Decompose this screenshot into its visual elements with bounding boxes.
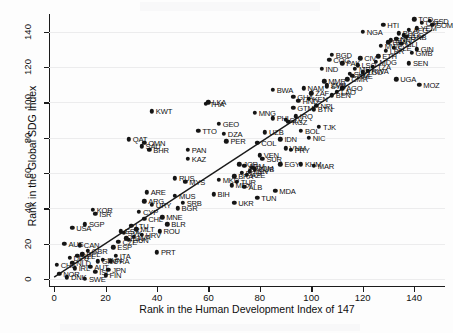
data-point-label: EGY (284, 160, 299, 169)
data-point-label: THA (210, 100, 225, 109)
data-point-label: SEN (413, 59, 428, 68)
data-point-label: GRC (102, 257, 118, 266)
data-point-label: MDA (279, 186, 295, 195)
x-tick-label: 40 (152, 292, 163, 303)
data-point-label: TTO (202, 126, 216, 135)
data-point-label: URY (156, 200, 171, 209)
y-tick-label: 0 (22, 264, 33, 294)
y-tick-label: 140 (22, 17, 33, 47)
data-point-label: VEN (264, 151, 279, 160)
data-point-label: BWA (277, 85, 293, 94)
data-point-label: NGA (367, 27, 383, 36)
data-point-label: UGA (400, 75, 416, 84)
data-point-label: UKR (238, 198, 253, 207)
x-tick-label: 0 (51, 292, 56, 303)
data-point-label: MKD (223, 176, 239, 185)
figure-screenshot: Rank in the Global SDG Index Rank in the… (0, 0, 453, 333)
data-point-label: MUS (179, 191, 195, 200)
data-point-label: ARE (151, 188, 166, 197)
data-point-label: TUN (261, 193, 276, 202)
data-point-label: CAN (84, 241, 99, 250)
data-point-label: BIH (218, 190, 230, 199)
y-tick-label: 80 (22, 123, 33, 153)
data-point-label: MOZ (423, 80, 439, 89)
data-point-label: ITA (120, 251, 131, 260)
data-point-label: HUN (133, 236, 149, 245)
data-point-label: HTI (387, 20, 399, 29)
data-point-label: MNG (259, 108, 276, 117)
y-tick-label: 100 (22, 87, 33, 117)
data-point-label: GTM (297, 103, 313, 112)
data-point-label: KOR (97, 206, 113, 215)
data-point-label: GNB (410, 32, 426, 41)
data-point-label: SOM (436, 20, 453, 29)
x-tick-label: 120 (355, 292, 371, 303)
data-point-label: PRT (161, 248, 175, 257)
data-point-label: GMB (416, 48, 433, 57)
data-point-label: MDG (380, 57, 397, 66)
data-point-label: NZL (81, 251, 95, 260)
data-point-label: KWT (156, 107, 172, 116)
data-point-label: SWZ (354, 70, 370, 79)
x-axis-line (49, 286, 445, 287)
y-tick-label: 40 (22, 193, 33, 223)
data-point-label: KHM (305, 160, 321, 169)
data-point-label: TJK (323, 123, 336, 132)
data-point-label: SGP (89, 220, 104, 229)
data-point-label: PAN (192, 146, 206, 155)
x-tick-label: 80 (255, 292, 266, 303)
x-tick-label: 60 (203, 292, 214, 303)
data-point-label: ESP (117, 243, 132, 252)
data-point-label: ROU (164, 227, 180, 236)
plot-area: DNKSWEFINISLNORIRLCHENLDAUTDEUBELSVNFRAG… (49, 14, 445, 286)
data-point-label: SAU (146, 142, 161, 151)
scan-artifact (140, 2, 320, 11)
data-point-label: MLT (140, 225, 154, 234)
data-point-label: NPL (320, 101, 334, 110)
data-point-label: IND (326, 64, 338, 73)
data-point-label: DOM (256, 163, 273, 172)
x-axis-title: Rank in the Human Development Index of 1… (49, 303, 445, 315)
data-point-label: SYR (331, 82, 346, 91)
data-point-label: MYS (189, 177, 205, 186)
x-tick-label: 100 (303, 292, 319, 303)
x-tick-label: 140 (406, 292, 422, 303)
y-tick-label: 20 (22, 229, 33, 259)
data-point-label: NOR (63, 269, 79, 278)
y-tick-label: 120 (22, 52, 33, 82)
scan-artifact (60, 324, 360, 331)
data-point-label: PRY (295, 146, 310, 155)
data-point-label: NIC (313, 133, 325, 142)
data-point-label: JPN (112, 266, 126, 275)
data-point-label: KAZ (192, 154, 206, 163)
data-point-label: GEO (223, 119, 239, 128)
y-tick-label: 60 (22, 158, 33, 188)
data-point-label: IDN (284, 135, 296, 144)
x-tick-label: 20 (100, 292, 111, 303)
data-point-label: COL (261, 138, 276, 147)
data-point-label: QAT (133, 135, 147, 144)
data-point-label: UZB (269, 128, 284, 137)
data-point-label: KGZ (292, 117, 307, 126)
data-point-label: DZA (228, 130, 243, 139)
